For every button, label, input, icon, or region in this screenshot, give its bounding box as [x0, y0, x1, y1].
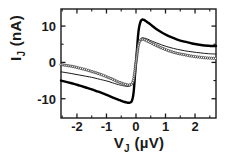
curve-open-circle-marker-curve — [60, 38, 217, 86]
plot-canvas — [0, 0, 229, 160]
curve-thick-solid-curve — [61, 20, 216, 103]
data-curves — [60, 20, 217, 103]
chart-figure: IJ (nA) VJ (µV) -10010 -2-1012 — [0, 0, 229, 160]
